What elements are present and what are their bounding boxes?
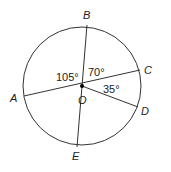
center-point [80, 84, 84, 88]
angle-35: 35° [103, 83, 120, 95]
circle-diagram: A B C D E O 105° 70° 35° [0, 0, 171, 172]
label-e: E [72, 150, 80, 162]
angle-105: 105° [56, 71, 79, 83]
label-a: A [9, 92, 17, 104]
label-o: O [78, 94, 87, 106]
angle-70: 70° [88, 66, 105, 78]
label-d: D [141, 105, 149, 117]
label-b: B [83, 9, 90, 21]
label-c: C [144, 64, 152, 76]
